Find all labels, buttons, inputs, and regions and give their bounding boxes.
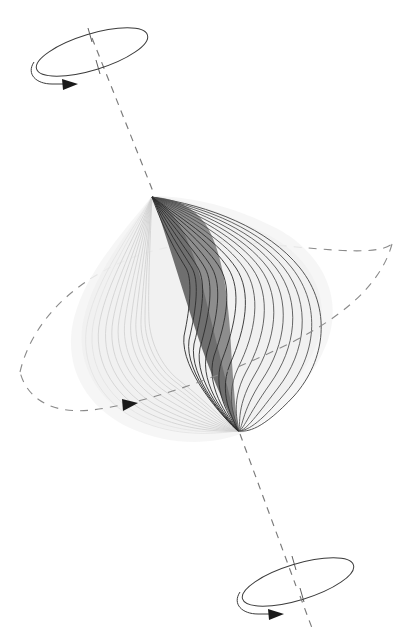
rotation-axis-lower-segment bbox=[240, 434, 296, 586]
south-axis-tick-top bbox=[292, 556, 296, 570]
north-spin-arrowhead bbox=[62, 79, 78, 90]
north-axis-tick-bottom bbox=[96, 60, 100, 74]
south-spin-ellipse bbox=[237, 548, 358, 616]
figure-root: Rotating teardrop surface with meridian … bbox=[0, 0, 403, 631]
rotating-teardrop-diagram: Rotating teardrop surface with meridian … bbox=[0, 0, 403, 631]
south-spin-indicator bbox=[237, 548, 359, 628]
south-spin-arrowhead bbox=[268, 609, 284, 620]
north-axis-tick-top bbox=[88, 28, 92, 42]
rotation-axis-upper-segment bbox=[92, 38, 154, 194]
north-spin-ellipse bbox=[31, 18, 152, 86]
rotation-axis-tail bbox=[300, 596, 312, 628]
north-spin-indicator bbox=[31, 18, 153, 90]
